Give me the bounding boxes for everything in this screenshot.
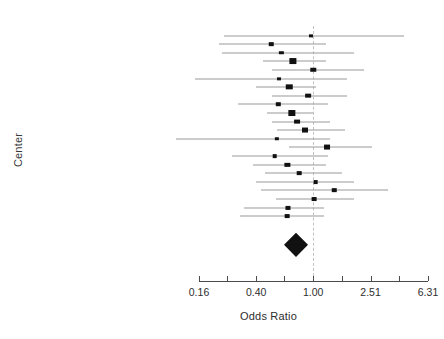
effect-estimate-marker [313,180,318,184]
forest-row [0,211,444,221]
confidence-interval-line [195,78,347,79]
x-axis-tick-label: 6.31 [418,286,438,298]
effect-estimate-marker [289,58,296,64]
x-axis-tick-label: 0.40 [246,286,266,298]
x-axis-tick [227,276,228,281]
x-axis-tick [284,276,285,281]
confidence-interval-line [289,147,371,148]
effect-estimate-marker [332,188,336,192]
confidence-interval-line [240,216,323,217]
effect-estimate-marker [269,42,273,46]
x-axis-tick [313,276,314,281]
effect-estimate-marker [277,77,281,80]
x-axis-tick [342,276,343,281]
x-axis-tick-label: 2.51 [360,286,380,298]
x-axis-tick [371,276,372,281]
effect-estimate-marker [279,51,283,55]
effect-estimate-marker [297,171,302,175]
x-axis-tick [399,276,400,281]
effect-estimate-marker [273,154,278,158]
effect-estimate-marker [288,110,295,116]
confidence-interval-line [277,130,345,131]
confidence-interval-line [272,121,330,122]
effect-estimate-marker [324,145,330,150]
effect-estimate-marker [310,68,315,72]
effect-estimate-marker [285,214,290,218]
x-axis-tick [428,276,429,281]
x-axis-tick-label: 1.00 [303,286,323,298]
effect-estimate-marker [305,93,311,98]
confidence-interval-line [272,69,363,70]
effect-estimate-marker [276,103,280,107]
confidence-interval-line [256,181,354,182]
effect-estimate-marker [294,119,300,124]
confidence-interval-line [232,155,328,156]
confidence-interval-line [176,138,330,139]
effect-estimate-marker [309,34,313,37]
confidence-interval-line [224,35,403,36]
x-axis-title: Odds Ratio [240,310,297,322]
x-axis-tick-label: 0.16 [189,286,209,298]
effect-estimate-marker [286,205,291,209]
confidence-interval-line [265,173,343,174]
effect-estimate-marker [312,197,317,201]
confidence-interval-line [238,104,327,105]
x-axis-tick [199,276,200,281]
confidence-interval-line [261,190,388,191]
effect-estimate-marker [285,162,290,166]
x-axis-line [199,281,428,282]
confidence-interval-line [244,207,323,208]
summary-diamond [284,233,308,257]
effect-estimate-marker [302,128,308,133]
confidence-interval-line [222,52,355,53]
effect-estimate-marker [275,137,279,141]
forest-plot: Center Center 1Center 2Center 3Center 4C… [0,0,444,339]
x-axis-tick [256,276,257,281]
effect-estimate-marker [286,84,292,89]
